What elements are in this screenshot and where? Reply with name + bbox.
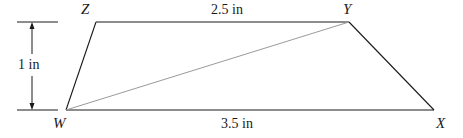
vertex-label-z: Z xyxy=(81,1,89,18)
vertex-label-y: Y xyxy=(343,1,351,18)
vertex-label-w: W xyxy=(53,115,66,132)
arrowhead-down-icon xyxy=(30,103,35,110)
trapezoid-diagram: Z Y W X 2.5 in 3.5 in 1 in xyxy=(0,0,463,138)
vertex-label-x: X xyxy=(436,115,445,132)
edge-xy xyxy=(349,22,434,110)
edge-zw xyxy=(66,22,96,110)
bottom-length-label: 3.5 in xyxy=(221,116,253,132)
top-length-label: 2.5 in xyxy=(211,2,243,18)
arrowhead-up-icon xyxy=(30,22,35,29)
diagonal-wy xyxy=(66,22,349,110)
height-label: 1 in xyxy=(18,57,39,73)
